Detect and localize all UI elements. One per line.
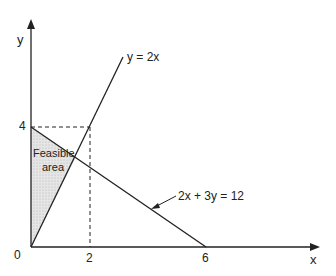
- feasible-label-line2: area: [42, 162, 64, 173]
- y-axis-label: y: [17, 33, 24, 46]
- feasible-region: [31, 127, 76, 247]
- line2-label: 2x + 3y = 12: [178, 190, 244, 202]
- y-axis-arrow-icon: [27, 19, 35, 29]
- y-tick-4: 4: [19, 120, 26, 132]
- feasible-label-line1: Feasible: [33, 148, 75, 159]
- origin-label: 0: [14, 249, 21, 261]
- x-tick-2: 2: [86, 252, 93, 264]
- pointer-arrow-icon: [151, 203, 160, 209]
- diagram-canvas: [0, 0, 336, 276]
- x-axis-label: x: [310, 253, 317, 266]
- x-axis-arrow-icon: [310, 243, 320, 251]
- x-tick-6: 6: [202, 252, 209, 264]
- line1-label: y = 2x: [127, 51, 159, 63]
